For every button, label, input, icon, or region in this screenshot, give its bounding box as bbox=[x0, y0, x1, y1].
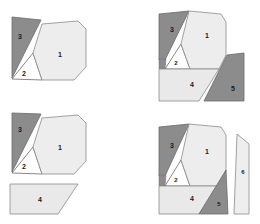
panel-bottom-right: 1 2 3 4 5 6 bbox=[130, 112, 260, 224]
piece-3-label: 3 bbox=[170, 26, 174, 33]
piece-1-label: 1 bbox=[205, 32, 209, 39]
piece-4-label: 4 bbox=[190, 81, 194, 88]
piece-4-label: 4 bbox=[38, 196, 42, 203]
panel-bottom-right-drawing: 1 2 3 4 5 6 bbox=[130, 112, 260, 224]
piece-2-label: 2 bbox=[22, 163, 26, 170]
panel-bottom-left-drawing: 1 2 3 4 bbox=[0, 112, 130, 224]
panel-top-left: 1 2 3 bbox=[0, 0, 130, 112]
piece-1-label: 1 bbox=[58, 51, 62, 58]
piece-4-shape bbox=[10, 184, 78, 214]
panel-top-right-drawing: 1 2 3 4 5 bbox=[130, 0, 260, 112]
piece-2-label: 2 bbox=[22, 70, 26, 77]
piece-1-label: 1 bbox=[205, 148, 209, 155]
piece-4-label: 4 bbox=[190, 195, 194, 202]
piece-3-wedge-shape bbox=[159, 59, 166, 69]
panel-bottom-left: 1 2 3 4 bbox=[0, 112, 130, 224]
piece-1-label: 1 bbox=[58, 144, 62, 151]
piece-1-shape bbox=[181, 11, 226, 69]
piece-1-shape bbox=[181, 124, 226, 186]
piece-5-label: 5 bbox=[231, 85, 235, 92]
panel-top-right: 1 2 3 4 5 bbox=[130, 0, 260, 112]
panel-top-left-drawing: 1 2 3 bbox=[0, 0, 130, 112]
piece-3-label: 3 bbox=[18, 33, 22, 40]
figure-grid: 1 2 3 1 2 3 4 5 bbox=[0, 0, 260, 224]
piece-3-wedge-shape bbox=[159, 175, 166, 186]
piece-3-label: 3 bbox=[170, 142, 174, 149]
piece-3-label: 3 bbox=[18, 126, 22, 133]
